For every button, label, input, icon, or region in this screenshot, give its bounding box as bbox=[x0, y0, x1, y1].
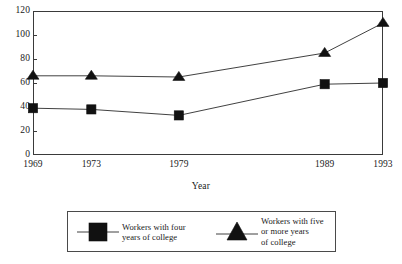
x-tick-label: 1993 bbox=[373, 159, 392, 169]
square-marker-icon bbox=[76, 218, 120, 246]
x-tick-label: 1973 bbox=[82, 159, 101, 169]
legend-entry-four-years: Workers with four years of college bbox=[76, 218, 186, 246]
y-tick-label: 80 bbox=[4, 54, 30, 64]
x-tick-label: 1989 bbox=[315, 159, 334, 169]
y-tick-label: 20 bbox=[4, 126, 30, 136]
clipped-title-remnant bbox=[26, 0, 386, 2]
legend-label-five-or-more-years: Workers with five or more years of colle… bbox=[259, 216, 324, 247]
y-tick-mark bbox=[33, 107, 37, 108]
legend-entry-five-or-more-years: Workers with five or more years of colle… bbox=[215, 216, 324, 247]
triangle-marker-icon bbox=[215, 218, 259, 246]
y-tick-mark bbox=[33, 83, 37, 84]
x-tick-label: 1969 bbox=[23, 159, 42, 169]
y-tick-label: 40 bbox=[4, 102, 30, 112]
y-tick-mark bbox=[33, 131, 37, 132]
y-tick-label: 100 bbox=[4, 30, 30, 40]
chart-figure: 020406080100120 19691973197919891993 Yea… bbox=[0, 0, 402, 264]
plot-area bbox=[33, 11, 383, 155]
y-tick-mark bbox=[33, 35, 37, 36]
y-tick-label: 120 bbox=[4, 6, 30, 16]
x-tick-label: 1979 bbox=[169, 159, 188, 169]
y-tick-label: 60 bbox=[4, 78, 30, 88]
legend: Workers with four years of college Worke… bbox=[67, 211, 336, 252]
legend-label-four-years: Workers with four years of college bbox=[120, 222, 186, 243]
x-axis-title: Year bbox=[0, 181, 402, 191]
y-tick-mark bbox=[33, 59, 37, 60]
